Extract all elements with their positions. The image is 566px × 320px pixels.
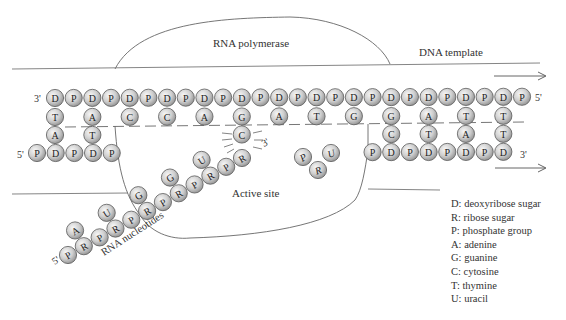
coding-strand-bead-P: P bbox=[439, 143, 456, 160]
svg-text:D: D bbox=[89, 93, 96, 104]
svg-text:D: D bbox=[51, 93, 58, 104]
template-base-T: T bbox=[457, 107, 474, 124]
coding-strand-bead-D: D bbox=[84, 144, 101, 161]
paired-base-T: T bbox=[495, 125, 512, 142]
top-strand-bead-P: P bbox=[140, 89, 157, 106]
top-strand-bead-P: P bbox=[327, 89, 344, 106]
legend-item-phosphate: P: phosphate group bbox=[451, 224, 541, 238]
top-strand-bead-D: D bbox=[420, 88, 437, 105]
paired-base-A: A bbox=[46, 126, 63, 143]
svg-text:A: A bbox=[51, 130, 59, 141]
coding-strand-bead-P: P bbox=[66, 144, 83, 161]
top-strand-bead-D: D bbox=[121, 89, 138, 106]
rna-backbone-bead-P: P bbox=[123, 211, 140, 228]
rna-backbone-bead-P: P bbox=[91, 229, 108, 246]
svg-text:P: P bbox=[220, 93, 226, 104]
rna-backbone-bead-P: P bbox=[218, 158, 235, 175]
coding-strand-bead-P: P bbox=[401, 143, 418, 160]
top-strand-bead-D: D bbox=[271, 89, 288, 106]
svg-text:D: D bbox=[313, 92, 320, 103]
rna-base-G: G bbox=[161, 169, 178, 186]
template-base-A: A bbox=[196, 108, 213, 125]
svg-text:T: T bbox=[313, 111, 319, 122]
bottom-strand-5-prime: 5' bbox=[17, 149, 24, 160]
template-base-A: A bbox=[420, 107, 437, 124]
svg-text:D: D bbox=[462, 92, 469, 103]
svg-text:T: T bbox=[426, 129, 432, 140]
top-strand-bead-D: D bbox=[84, 89, 101, 106]
svg-text:D: D bbox=[500, 147, 507, 158]
svg-text:P: P bbox=[258, 92, 264, 103]
free-nucleotide-uracil: U bbox=[322, 144, 339, 161]
rna-backbone-bead-R: R bbox=[75, 238, 92, 255]
svg-text:P: P bbox=[72, 148, 78, 159]
top-strand-bead-P: P bbox=[364, 89, 381, 106]
free-nucleotide-ribose: R bbox=[309, 161, 326, 178]
svg-text:C: C bbox=[388, 129, 395, 140]
svg-text:D: D bbox=[238, 93, 245, 104]
paired-base-T: T bbox=[84, 126, 101, 143]
rna-base-G: G bbox=[130, 187, 147, 204]
top-strand-bead-D: D bbox=[233, 89, 250, 106]
svg-text:P: P bbox=[146, 93, 152, 104]
template-base-C: C bbox=[121, 108, 138, 125]
svg-text:C: C bbox=[164, 112, 171, 123]
rna-backbone-bead-P: P bbox=[186, 176, 203, 193]
top-strand-bead-P: P bbox=[476, 88, 493, 105]
top-strand-bead-P: P bbox=[65, 89, 82, 106]
rna-backbone-bead-R: R bbox=[170, 185, 187, 202]
svg-text:D: D bbox=[500, 92, 507, 103]
top-strand-bead-D: D bbox=[46, 89, 63, 106]
svg-text:T: T bbox=[52, 112, 58, 123]
paired-base-A: A bbox=[457, 125, 474, 142]
svg-text:P: P bbox=[295, 92, 301, 103]
arrow-right-top-icon bbox=[494, 72, 546, 80]
top-strand-bead-D: D bbox=[457, 88, 474, 105]
svg-text:P: P bbox=[444, 147, 450, 158]
svg-text:P: P bbox=[444, 92, 450, 103]
svg-text:D: D bbox=[89, 148, 96, 159]
coding-strand-bead-D: D bbox=[383, 144, 400, 161]
svg-text:D: D bbox=[425, 147, 432, 158]
top-strand-5-prime: 5' bbox=[535, 92, 542, 103]
svg-text:P: P bbox=[407, 147, 413, 158]
legend-item-adenine: A: adenine bbox=[451, 238, 541, 252]
legend-item-deoxyribose: D: deoxyribose sugar bbox=[451, 197, 541, 211]
svg-text:A: A bbox=[425, 111, 433, 122]
svg-text:D: D bbox=[350, 92, 357, 103]
rna-base-U: U bbox=[193, 151, 210, 168]
svg-text:D: D bbox=[425, 92, 432, 103]
coding-strand-bead-P: P bbox=[476, 143, 493, 160]
arrow-right-bottom-icon bbox=[495, 164, 546, 172]
rna-backbone-bead-R: R bbox=[138, 202, 155, 219]
rna-3-prime: 3' bbox=[259, 136, 271, 149]
top-strand-bead-P: P bbox=[513, 88, 530, 105]
top-strand-bead-P: P bbox=[102, 89, 119, 106]
template-base-A: A bbox=[271, 108, 288, 125]
rna-backbone-bead-P: P bbox=[154, 193, 171, 210]
top-strand-bead-D: D bbox=[158, 89, 175, 106]
top-strand-bead-D: D bbox=[383, 89, 400, 106]
top-strand-bead-P: P bbox=[401, 88, 418, 105]
rna-backbone-bead-P: P bbox=[59, 246, 76, 263]
dna-template-top-line bbox=[12, 63, 540, 69]
legend-item-guanine: G: guanine bbox=[451, 251, 541, 265]
rna-backbone-bead-R: R bbox=[202, 167, 219, 184]
enzyme-lower-right-line bbox=[368, 189, 440, 190]
legend: D: deoxyribose sugar R: ribose sugar P: … bbox=[451, 197, 541, 306]
svg-text:T: T bbox=[89, 130, 95, 141]
svg-text:P: P bbox=[482, 92, 488, 103]
coding-strand-bead-P: P bbox=[28, 144, 45, 161]
paired-base-C: C bbox=[383, 126, 400, 143]
svg-text:P: P bbox=[109, 148, 115, 159]
bottom-strand-3-prime: 3' bbox=[520, 149, 527, 160]
svg-text:D: D bbox=[462, 147, 469, 158]
active-site-label: Active site bbox=[232, 187, 279, 199]
svg-text:P: P bbox=[332, 92, 338, 103]
legend-item-uracil: U: uracil bbox=[451, 292, 541, 306]
svg-text:A: A bbox=[201, 112, 209, 123]
rna-polymerase-label: RNA polymerase bbox=[213, 37, 289, 49]
top-strand-bead-P: P bbox=[252, 89, 269, 106]
coding-strand-bead-P: P bbox=[103, 144, 120, 161]
svg-text:D: D bbox=[201, 93, 208, 104]
